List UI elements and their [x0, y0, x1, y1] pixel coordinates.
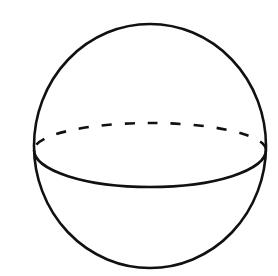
sphere-outline	[34, 24, 266, 268]
equator-back-dashed	[34, 123, 266, 150]
equator-front-solid	[34, 150, 266, 187]
sphere-svg	[0, 0, 278, 276]
sphere-diagram	[0, 0, 278, 276]
